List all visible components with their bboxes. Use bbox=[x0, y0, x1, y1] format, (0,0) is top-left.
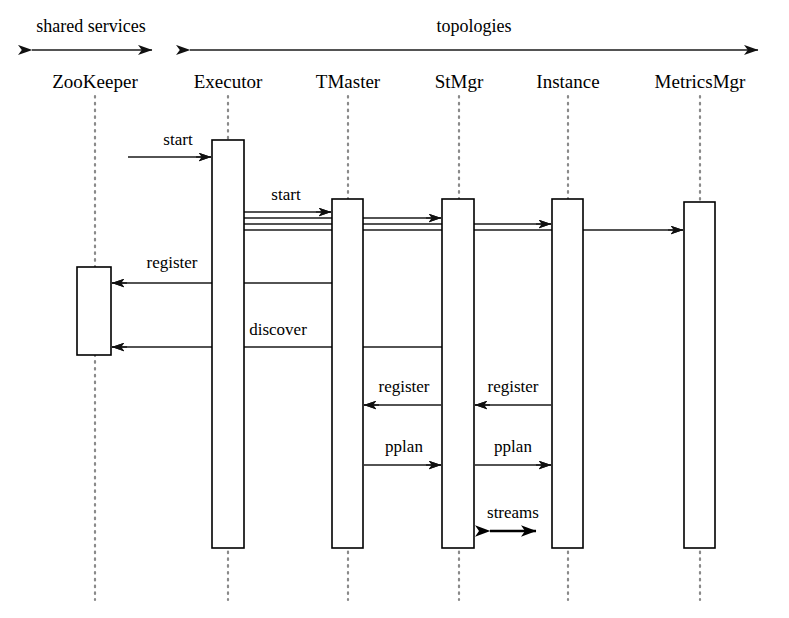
activation-boxes bbox=[77, 140, 715, 548]
message-arrowheads-overlay bbox=[112, 157, 683, 531]
message-arrows bbox=[112, 157, 683, 465]
message-label-pplan-stmgr: pplan bbox=[385, 437, 423, 456]
sequence-diagram-canvas: shared services topologies ZooKeeper Exe… bbox=[0, 0, 789, 618]
message-label-start-executor: start bbox=[163, 130, 193, 149]
activation-metricsmgr bbox=[684, 202, 715, 548]
activation-executor bbox=[212, 140, 244, 548]
group-shared-services: shared services bbox=[32, 16, 152, 50]
sequence-diagram: shared services topologies ZooKeeper Exe… bbox=[0, 0, 789, 618]
message-label-start-topology: start bbox=[271, 185, 301, 204]
activation-zookeeper bbox=[77, 267, 111, 355]
actor-label-tmaster: TMaster bbox=[316, 71, 381, 92]
actor-label-instance: Instance bbox=[536, 71, 599, 92]
actor-label-executor: Executor bbox=[194, 71, 263, 92]
actor-label-metricsmgr: MetricsMgr bbox=[655, 71, 746, 92]
actor-headers: ZooKeeper Executor TMaster StMgr Instanc… bbox=[52, 71, 746, 92]
message-label-register-zookeeper: register bbox=[147, 253, 198, 272]
group-topologies: topologies bbox=[190, 16, 758, 50]
group-scopes: shared services topologies bbox=[32, 16, 758, 50]
group-label-shared-services: shared services bbox=[36, 16, 145, 36]
message-label-register-stmgr: register bbox=[488, 377, 539, 396]
message-label-streams: streams bbox=[487, 503, 539, 522]
activation-tmaster bbox=[332, 199, 363, 548]
message-label-register-tmaster: register bbox=[379, 377, 430, 396]
message-label-discover-zookeeper: discover bbox=[249, 320, 307, 339]
group-label-topologies: topologies bbox=[437, 16, 512, 36]
activation-stmgr bbox=[442, 199, 474, 548]
actor-label-zookeeper: ZooKeeper bbox=[52, 71, 138, 92]
activation-instance bbox=[552, 199, 583, 548]
message-label-pplan-instance: pplan bbox=[494, 437, 532, 456]
lifelines bbox=[95, 96, 700, 600]
actor-label-stmgr: StMgr bbox=[435, 71, 484, 92]
